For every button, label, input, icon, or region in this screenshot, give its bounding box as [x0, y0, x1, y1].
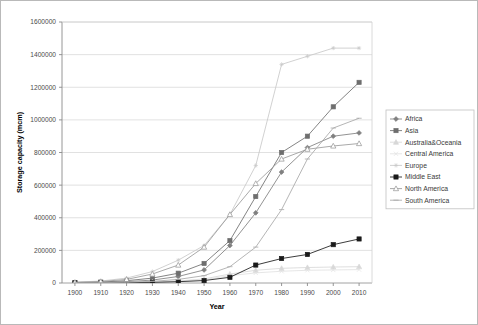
series-marker — [331, 243, 335, 247]
series-marker — [254, 163, 258, 167]
x-tick-label: 2000 — [326, 289, 341, 296]
legend: AfricaAsiaAustralia&OceaniaCentral Ameri… — [386, 110, 474, 209]
x-tick-label: 1960 — [223, 289, 238, 296]
series-marker — [176, 271, 180, 275]
series-marker — [279, 62, 283, 66]
x-tick-label: 1900 — [68, 289, 83, 296]
series-marker — [202, 261, 206, 265]
series-marker — [228, 275, 232, 279]
legend-box — [386, 110, 474, 209]
x-axis-title: Year — [209, 302, 224, 311]
series-marker — [305, 252, 309, 256]
series-marker — [305, 54, 309, 58]
y-tick-label: 1200000 — [30, 84, 56, 91]
series-marker — [394, 129, 398, 133]
series-marker — [279, 150, 283, 154]
x-tick-label: 1970 — [248, 289, 263, 296]
x-tick-label: 1940 — [171, 289, 186, 296]
y-tick-label: 0 — [52, 279, 56, 286]
y-tick-label: 1400000 — [30, 51, 56, 58]
legend-label: Asia — [405, 127, 418, 134]
series-marker — [228, 238, 232, 242]
x-tick-label: 1930 — [145, 289, 160, 296]
legend-label: Africa — [405, 115, 423, 122]
series-marker — [357, 80, 361, 84]
series-marker — [357, 46, 361, 50]
x-tick-label: 1910 — [93, 289, 108, 296]
series-marker — [305, 134, 309, 138]
legend-label: North America — [405, 185, 448, 192]
y-tick-label: 200000 — [34, 247, 56, 254]
series-marker — [394, 175, 398, 179]
y-tick-label: 1600000 — [30, 18, 56, 25]
series-marker — [254, 263, 258, 267]
x-tick-label: 1920 — [119, 289, 134, 296]
series-marker — [394, 163, 398, 167]
storage-capacity-line-chart: 0200000400000600000800000100000012000001… — [0, 0, 478, 325]
legend-label: South America — [405, 197, 449, 204]
x-tick-label: 1950 — [197, 289, 212, 296]
legend-label: Australia&Oceania — [405, 139, 462, 146]
series-marker — [254, 194, 258, 198]
y-tick-label: 400000 — [34, 214, 56, 221]
series-marker — [357, 237, 361, 241]
y-tick-label: 600000 — [34, 182, 56, 189]
chart-container: 0200000400000600000800000100000012000001… — [0, 0, 478, 325]
legend-label: Middle East — [405, 173, 441, 180]
series-marker — [202, 278, 206, 282]
legend-label: Europe — [405, 162, 427, 170]
x-tick-label: 1980 — [274, 289, 289, 296]
series-marker — [331, 46, 335, 50]
y-tick-label: 1000000 — [30, 116, 56, 123]
legend-label: Central America — [405, 150, 454, 157]
y-axis-title: Storage capacity (mcm) — [15, 111, 24, 193]
x-tick-label: 1990 — [300, 289, 315, 296]
x-tick-label: 2010 — [352, 289, 367, 296]
series-marker — [279, 256, 283, 260]
series-marker — [331, 105, 335, 109]
y-tick-label: 800000 — [34, 149, 56, 156]
